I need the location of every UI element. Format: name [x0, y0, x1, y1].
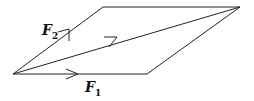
- f1-label: F1: [85, 79, 101, 98]
- parallelogram-diagram: [0, 0, 254, 101]
- f2-label: F2: [42, 22, 58, 41]
- resultant-arrowhead: [104, 37, 117, 47]
